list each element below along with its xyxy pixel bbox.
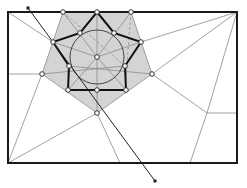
partition-line: [8, 74, 42, 163]
vertex-marker-icon: [150, 72, 155, 77]
vertex-marker-icon: [51, 40, 56, 45]
arrow-end-icon: [154, 180, 157, 183]
vertex-marker-icon: [95, 55, 100, 60]
partition-line: [190, 113, 207, 163]
vertex-marker-icon: [95, 10, 100, 15]
partition-line: [207, 12, 237, 113]
vertex-marker-icon: [95, 88, 100, 93]
pentagon-star-diagram: [0, 0, 247, 188]
vertex-marker-icon: [112, 31, 117, 36]
vertex-marker-icon: [78, 31, 83, 36]
vertex-marker-icon: [40, 72, 45, 77]
partition-line: [152, 12, 237, 74]
partition-line: [8, 113, 97, 163]
vertex-marker-icon: [129, 10, 134, 15]
vertex-marker-icon: [123, 64, 128, 69]
vertex-marker-icon: [67, 64, 72, 69]
partition-line: [141, 12, 237, 42]
vertex-marker-icon: [66, 88, 71, 93]
arrow-start-icon: [27, 7, 30, 10]
vertex-marker-icon: [61, 10, 66, 15]
vertex-marker-icon: [95, 111, 100, 116]
partition-line: [8, 12, 53, 42]
diagram-canvas: [0, 0, 247, 188]
vertex-marker-icon: [124, 88, 129, 93]
partition-line: [152, 74, 207, 113]
partition-line: [97, 113, 120, 163]
vertex-marker-icon: [139, 40, 144, 45]
